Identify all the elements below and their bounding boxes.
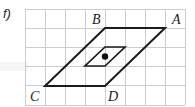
scan-artifact-band <box>0 62 28 71</box>
center-of-symmetry-dot <box>102 53 108 59</box>
label-D: D <box>107 89 118 104</box>
figure-panel: f) BACD <box>0 0 195 107</box>
label-B: B <box>92 12 101 27</box>
geometry-figure-canvas: BACD <box>0 0 195 107</box>
label-A: A <box>171 12 181 27</box>
label-C: C <box>30 89 40 104</box>
